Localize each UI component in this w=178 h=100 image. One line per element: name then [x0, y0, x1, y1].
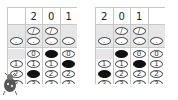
decimal-bubble[interactable]: . [10, 37, 23, 45]
decimal-bubble[interactable]: . [133, 37, 146, 45]
digit-bubble-2[interactable]: 2 [133, 70, 146, 78]
digit-bubble-3[interactable]: 3 [27, 80, 40, 84]
digit-cell: 3 [131, 79, 148, 84]
digit-bubble-0[interactable]: 0 [150, 50, 163, 58]
digit-bubble-1[interactable]: 1 [115, 60, 128, 68]
digit-bubble-3[interactable]: 3 [98, 80, 111, 84]
grid-column: 1.0123 [61, 8, 78, 84]
digit-cell: 1 [26, 59, 43, 69]
grid-column: 0/.0123 [114, 8, 132, 84]
digit-bubble-2[interactable]: 2 [27, 70, 40, 78]
decimal-bubble[interactable]: . [150, 37, 163, 45]
column-answer-box: 0 [114, 8, 131, 25]
digit-cell: 0 [61, 49, 78, 59]
digit-bubble-3[interactable]: 3 [62, 80, 75, 84]
digit-bubble-1[interactable]: 1 [45, 60, 58, 68]
digit-bubble-3[interactable]: 3 [133, 80, 146, 84]
digit-bubble-0[interactable]: 0 [62, 50, 75, 58]
digit-bubble-2[interactable]: 2 [98, 70, 111, 78]
insect-figure-icon [3, 73, 17, 95]
symbol-area: . [8, 25, 25, 48]
column-answer-box: 2 [26, 8, 43, 25]
decimal-bubble[interactable]: . [115, 37, 128, 45]
digit-cell [96, 49, 113, 59]
grid-column: .0123 [149, 8, 166, 84]
digit-cell: 2 [131, 69, 148, 79]
digit-cell: 1 [43, 59, 60, 69]
digit-bubble-0[interactable]: 0 [115, 50, 128, 58]
digit-cell: 1 [8, 59, 25, 69]
slash-bubble[interactable]: / [45, 27, 58, 35]
digit-bubble-0[interactable]: 0 [45, 50, 58, 58]
column-answer-box [8, 8, 25, 25]
symbol-area: /. [131, 25, 148, 48]
digit-bubble-2[interactable]: 2 [115, 70, 128, 78]
digit-bubble-2[interactable]: 2 [62, 70, 75, 78]
decimal-bubble[interactable]: . [62, 37, 75, 45]
digit-cell: 2 [26, 69, 43, 79]
digit-cell: 3 [43, 79, 60, 84]
digit-cell: 3 [26, 79, 43, 84]
column-answer-box: 2 [96, 8, 113, 25]
digit-bubble-2[interactable]: 2 [45, 70, 58, 78]
digit-cell: 3 [149, 79, 166, 84]
digit-bubble-2[interactable]: 2 [150, 70, 163, 78]
symbol-area: /. [26, 25, 43, 48]
digit-cell: 0 [114, 49, 131, 59]
digit-cell: 0 [43, 49, 60, 59]
symbol-area: . [96, 25, 113, 48]
decimal-bubble[interactable]: . [45, 37, 58, 45]
digit-cell: 1 [96, 59, 113, 69]
slash-bubble[interactable]: / [27, 27, 40, 35]
digit-bubble-3[interactable]: 3 [150, 80, 163, 84]
grid-column: 1/.0123 [131, 8, 149, 84]
grid-column: 2/.0123 [26, 8, 44, 84]
column-answer-box: 1 [131, 8, 148, 25]
digit-bubble-3[interactable]: 3 [115, 80, 128, 84]
digit-bubble-1[interactable]: 1 [133, 60, 146, 68]
grid-column: 0/.0123 [43, 8, 61, 84]
digit-cell: 1 [149, 59, 166, 69]
slash-bubble[interactable]: / [115, 27, 128, 35]
digit-bubble-1[interactable]: 1 [10, 60, 23, 68]
decimal-bubble[interactable]: . [27, 37, 40, 45]
symbol-area: . [149, 25, 166, 48]
digit-cell: 2 [61, 69, 78, 79]
digit-cell: 2 [96, 69, 113, 79]
digit-cell: 1 [114, 59, 131, 69]
column-answer-box [149, 8, 166, 25]
symbol-area: . [61, 25, 78, 48]
digit-cell: 2 [149, 69, 166, 79]
grid-column: 2.123 [96, 8, 114, 84]
slash-bubble[interactable]: / [133, 27, 146, 35]
digit-bubble-1[interactable]: 1 [62, 60, 75, 68]
digit-cell: 3 [96, 79, 113, 84]
symbol-area: /. [114, 25, 131, 48]
symbol-area: /. [43, 25, 60, 48]
digit-cell: 3 [61, 79, 78, 84]
decimal-bubble[interactable]: . [98, 37, 111, 45]
digit-cell: 0 [26, 49, 43, 59]
digit-bubble-3[interactable]: 3 [45, 80, 58, 84]
digit-bubble-1[interactable]: 1 [27, 60, 40, 68]
digit-cell: 0 [131, 49, 148, 59]
left-answer-grid: .1232/.01230/.01231.0123 [7, 7, 77, 84]
column-answer-box: 0 [43, 8, 60, 25]
digit-cell: 3 [114, 79, 131, 84]
digit-cell: 2 [43, 69, 60, 79]
column-answer-box: 1 [61, 8, 78, 25]
digit-cell: 1 [131, 59, 148, 69]
digit-cell: 1 [61, 59, 78, 69]
digit-cell: 0 [149, 49, 166, 59]
digit-cell: 2 [114, 69, 131, 79]
digit-bubble-1[interactable]: 1 [98, 60, 111, 68]
digit-bubble-1[interactable]: 1 [150, 60, 163, 68]
digit-cell [8, 49, 25, 59]
digit-bubble-0[interactable]: 0 [27, 50, 40, 58]
digit-bubble-0[interactable]: 0 [133, 50, 146, 58]
right-answer-grid: 2.1230/.01231/.0123.0123 [95, 7, 165, 84]
